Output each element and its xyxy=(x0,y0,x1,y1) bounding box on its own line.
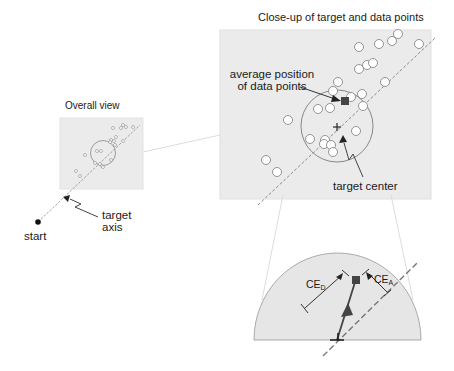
closeup-title: Close-up of target and data points xyxy=(258,11,424,23)
target-axis-arrowhead xyxy=(63,195,70,202)
closeup-panel xyxy=(220,30,431,199)
ce-a-sub: A xyxy=(389,279,394,286)
ce-a-label: CEA xyxy=(374,273,393,289)
target-axis-label: target axis xyxy=(102,209,131,233)
overview-title: Overall view xyxy=(65,100,119,112)
target-center-label: target center xyxy=(333,180,398,192)
detail-average-marker xyxy=(352,276,360,284)
average-position-label: average position of data points xyxy=(224,68,320,92)
overview-panel xyxy=(60,118,143,189)
average-label-line2: of data points xyxy=(224,80,320,92)
ce-a-main: CE xyxy=(374,273,389,285)
overview-connector-line xyxy=(143,135,220,152)
average-label-line1: average position xyxy=(224,68,320,80)
ce-d-main: CE xyxy=(306,278,321,290)
start-label: start xyxy=(24,230,46,242)
target-axis-line2: axis xyxy=(102,221,131,233)
target-axis-line1: target xyxy=(102,209,131,221)
ce-d-label: CED xyxy=(306,278,326,294)
average-position-marker xyxy=(341,97,349,105)
start-point xyxy=(35,219,41,225)
ce-d-sub: D xyxy=(321,284,326,291)
target-axis-pointer xyxy=(70,199,98,217)
detail-half-disk xyxy=(254,253,421,340)
